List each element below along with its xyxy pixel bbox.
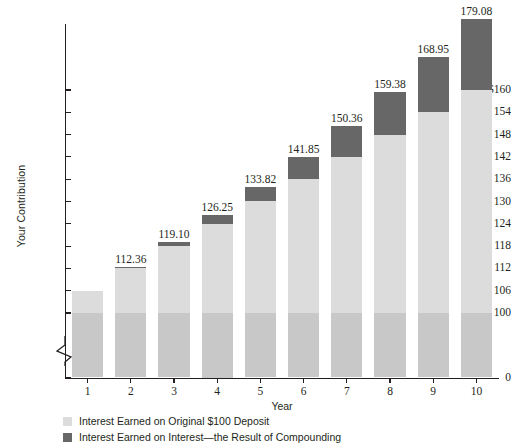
bar-value-label: 126.25 (201, 201, 233, 213)
y-axis-title: Your Contribution (15, 146, 27, 266)
bar-segment-principal (158, 313, 189, 378)
x-tick (303, 378, 304, 383)
x-tick-label: 10 (456, 385, 496, 397)
bar-segment-principal (461, 313, 492, 378)
x-tick-label: 7 (327, 385, 367, 397)
bar-segment-compound-interest (288, 157, 319, 179)
y-tick (66, 223, 71, 224)
chart-legend: Interest Earned on Original $100 Deposit… (63, 415, 341, 447)
bar-segment-compound-interest (158, 242, 189, 246)
y-tick (66, 156, 71, 157)
legend-item[interactable]: Interest Earned on Interest—the Result o… (63, 431, 341, 444)
bar-group[interactable]: 150.36 (331, 126, 362, 378)
bar-segment-compound-interest (245, 187, 276, 201)
y-tick (66, 201, 71, 202)
x-tick-label: 9 (413, 385, 453, 397)
bar-segment-principal (202, 313, 233, 378)
bar-value-label: 112.36 (115, 253, 146, 265)
bar-segment-simple-interest (418, 112, 449, 313)
bar-segment-simple-interest (461, 90, 492, 313)
bar-value-label: 141.85 (288, 143, 320, 155)
bar-segment-compound-interest (331, 126, 362, 157)
bar-segment-simple-interest (374, 135, 405, 313)
bar-group[interactable]: 168.95 (418, 57, 449, 378)
bar-group[interactable]: 112.36 (115, 267, 146, 377)
bar-segment-principal (72, 313, 103, 378)
legend-label: Interest Earned on Original $100 Deposit (79, 416, 269, 427)
bar-segment-compound-interest (461, 19, 492, 90)
bar-value-label: 133.82 (245, 173, 277, 185)
x-tick-label: 1 (68, 385, 108, 397)
x-tick (260, 378, 261, 383)
x-tick-label: 4 (197, 385, 237, 397)
x-tick (217, 378, 218, 383)
x-tick (130, 378, 131, 383)
y-tick (66, 377, 71, 378)
x-axis-title: Year (65, 400, 499, 412)
x-tick (87, 378, 88, 383)
legend-swatch-icon (63, 433, 72, 442)
bar-segment-compound-interest (374, 92, 405, 134)
y-tick (66, 290, 71, 291)
y-tick (66, 179, 71, 180)
x-tick (476, 378, 477, 383)
bar-value-label: 179.08 (461, 5, 493, 17)
bar-segment-principal (245, 313, 276, 378)
bar-group[interactable]: 119.10 (158, 242, 189, 377)
bar-segment-simple-interest (288, 179, 319, 313)
bar-group[interactable]: 133.82 (245, 187, 276, 377)
legend-swatch-icon (63, 417, 72, 426)
bar-group[interactable]: 126.25 (202, 215, 233, 377)
x-tick (173, 378, 174, 383)
x-tick-label: 6 (284, 385, 324, 397)
x-tick (389, 378, 390, 383)
bar-segment-simple-interest (331, 157, 362, 313)
bar-segment-principal (288, 313, 319, 378)
bar-segment-simple-interest (158, 246, 189, 313)
x-tick-label: 2 (111, 385, 151, 397)
bar-value-label: 168.95 (417, 43, 449, 55)
y-tick (66, 246, 71, 247)
y-tick (66, 312, 71, 313)
bar-group[interactable] (72, 291, 103, 378)
x-tick-label: 5 (240, 385, 280, 397)
bar-segment-compound-interest (115, 267, 146, 268)
bar-group[interactable]: 159.38 (374, 92, 405, 377)
bar-segment-principal (418, 313, 449, 378)
bar-segment-simple-interest (115, 268, 146, 313)
x-tick-label: 3 (154, 385, 194, 397)
bar-group[interactable]: 179.08 (461, 19, 492, 377)
y-tick (66, 134, 71, 135)
bar-segment-simple-interest (202, 224, 233, 313)
bar-segment-principal (331, 313, 362, 378)
bar-segment-simple-interest (245, 201, 276, 313)
y-tick (66, 89, 71, 90)
bar-group[interactable]: 141.85 (288, 157, 319, 377)
x-tick (433, 378, 434, 383)
x-tick-label: 8 (370, 385, 410, 397)
bar-value-label: 150.36 (331, 112, 363, 124)
bar-segment-simple-interest (72, 291, 103, 313)
legend-label: Interest Earned on Interest—the Result o… (79, 432, 341, 443)
y-tick (66, 268, 71, 269)
x-tick (346, 378, 347, 383)
legend-item[interactable]: Interest Earned on Original $100 Deposit (63, 415, 341, 428)
bar-segment-principal (115, 313, 146, 378)
bar-value-label: 119.10 (158, 228, 189, 240)
bar-value-label: 159.38 (374, 78, 406, 90)
bar-segment-principal (374, 313, 405, 378)
bar-segment-compound-interest (418, 57, 449, 113)
y-tick (66, 112, 71, 113)
bar-segment-compound-interest (202, 215, 233, 223)
